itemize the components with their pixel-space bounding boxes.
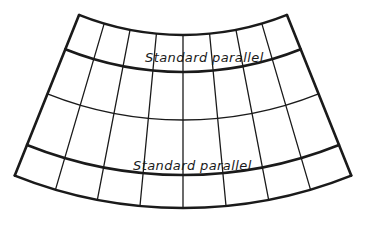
standard-parallel-label-upper: Standard parallel — [145, 50, 264, 65]
meridians-group — [15, 15, 351, 208]
conic-projection-diagram: Standard parallel Standard parallel — [0, 0, 367, 225]
meridian-line — [262, 24, 311, 190]
standard-parallel-label-lower: Standard parallel — [133, 158, 252, 173]
border-parallel-line — [79, 15, 287, 35]
meridian-line — [55, 24, 104, 190]
